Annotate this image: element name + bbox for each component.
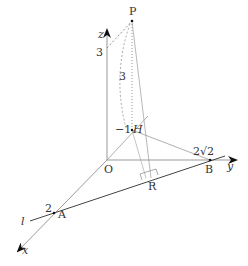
label-a-coord: 2 bbox=[45, 202, 52, 215]
pr-segment bbox=[132, 21, 151, 178]
label-p: P bbox=[129, 5, 137, 18]
x-axis bbox=[18, 160, 107, 251]
label-z-axis: z bbox=[97, 28, 104, 41]
label-y-axis: y bbox=[226, 160, 234, 173]
label-x-axis: x bbox=[22, 244, 29, 257]
right-angle-mark bbox=[140, 169, 158, 180]
label-a: A bbox=[57, 208, 67, 221]
label-r: R bbox=[148, 180, 157, 193]
point-p bbox=[131, 20, 134, 23]
label-h: H bbox=[132, 123, 143, 136]
point-a bbox=[53, 212, 56, 215]
label-b-coord: 2√2 bbox=[193, 145, 214, 158]
label-h-coord: −1 bbox=[115, 123, 131, 136]
label-b: B bbox=[205, 163, 213, 176]
dashed-z-to-p bbox=[107, 21, 132, 48]
label-line-l: l bbox=[21, 215, 25, 228]
point-b bbox=[209, 159, 212, 162]
label-z-height: 3 bbox=[96, 46, 103, 59]
hr-segment bbox=[132, 130, 146, 178]
diagram-canvas: P z 3 3 −1 H O 2√2 B y R 2 A l x bbox=[0, 0, 248, 266]
label-ph-length: 3 bbox=[119, 70, 126, 83]
label-o: O bbox=[104, 163, 113, 176]
